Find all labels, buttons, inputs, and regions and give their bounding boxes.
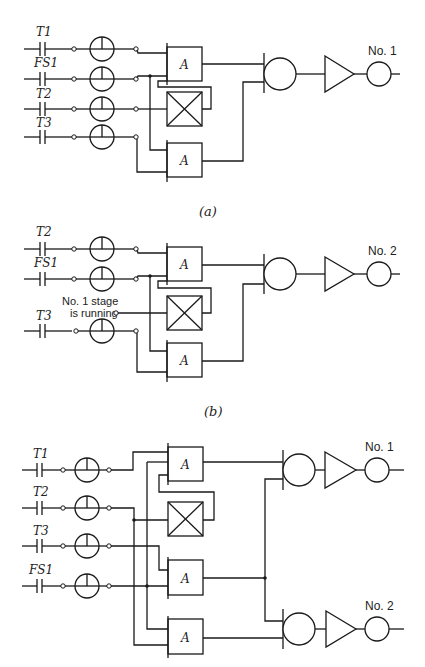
panel-caption: (a) <box>199 204 217 219</box>
and-gate-2: A <box>167 340 202 382</box>
timer-icon <box>90 67 114 91</box>
input-label: FS1 <box>33 56 58 70</box>
output-label: No. 2 <box>365 599 394 613</box>
panel-b: T2 FS1 No. 1 s <box>24 225 400 419</box>
input-row-t3: T3 <box>24 116 167 172</box>
svg-text:A: A <box>179 154 189 168</box>
output-coil-icon <box>367 62 391 86</box>
svg-text:A: A <box>180 631 190 645</box>
input-label: T1 <box>36 25 52 39</box>
output-coil-icon <box>365 617 389 641</box>
panel-a: T1 FS1 T2 <box>24 25 400 219</box>
logic-diagram-figure: T1 FS1 T2 <box>0 0 425 667</box>
and-gate-2: A <box>167 140 202 182</box>
svg-text:A: A <box>180 458 190 472</box>
timer-icon <box>90 37 114 61</box>
svg-text:T2: T2 <box>36 225 52 239</box>
input-row-t1: T1 <box>22 447 168 482</box>
panel-caption: (b) <box>204 404 222 419</box>
output-label: No. 1 <box>365 440 394 454</box>
amplifier-icon <box>325 452 356 488</box>
inhibit-box-icon <box>158 281 211 330</box>
and-gate-1: A <box>167 43 202 85</box>
timer-icon <box>90 267 114 291</box>
and-gate-2: A <box>168 557 203 599</box>
svg-text:T1: T1 <box>33 447 49 461</box>
timer-icon <box>75 574 99 598</box>
input-row-stage-running: No. 1 stage is running <box>62 295 167 319</box>
input-label: T2 <box>36 87 52 101</box>
or-gate <box>264 254 296 294</box>
svg-text:FS1: FS1 <box>33 256 58 270</box>
timer-icon <box>90 319 114 343</box>
timer-icon <box>90 97 114 121</box>
timer-icon <box>90 237 114 261</box>
timer-icon <box>75 496 99 520</box>
or-gate-1 <box>283 450 315 490</box>
and-gate-3: A <box>168 616 203 658</box>
or-gate-2 <box>283 609 315 649</box>
svg-text:A: A <box>179 354 189 368</box>
svg-text:FS1: FS1 <box>28 563 53 577</box>
svg-text:T3: T3 <box>33 524 49 538</box>
svg-text:T3: T3 <box>36 309 52 323</box>
panel-c: T1 T2 T3 <box>22 440 404 658</box>
amplifier-icon <box>326 611 356 647</box>
output-coil-icon <box>367 262 391 286</box>
timer-icon <box>75 534 99 558</box>
inhibit-box-icon <box>159 475 214 536</box>
output-label: No. 2 <box>368 244 397 258</box>
svg-text:No. 1 stage: No. 1 stage <box>62 295 118 307</box>
output-coil-icon <box>365 458 389 482</box>
timer-icon <box>75 458 99 482</box>
input-label: T3 <box>36 116 52 130</box>
inhibit-box-icon <box>158 81 211 126</box>
svg-text:is running: is running <box>70 307 118 319</box>
and-gate-1: A <box>167 243 202 285</box>
svg-text:A: A <box>179 58 189 72</box>
svg-text:A: A <box>179 258 189 272</box>
svg-text:A: A <box>180 572 190 586</box>
or-gate <box>264 53 296 93</box>
amplifier-icon <box>325 56 354 92</box>
output-label: No. 1 <box>368 44 397 58</box>
timer-icon <box>90 125 114 149</box>
and-gate-1: A <box>168 443 203 485</box>
svg-text:T2: T2 <box>33 485 49 499</box>
amplifier-icon <box>325 257 354 291</box>
